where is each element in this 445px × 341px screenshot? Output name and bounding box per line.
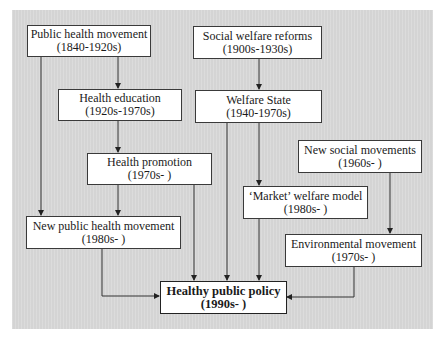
node-period: (1970s- ) [128,169,172,182]
node-public-health-movement: Public health movement (1840-1920s) [27,25,151,57]
node-social-welfare-reforms: Social welfare reforms (1900s-1930s) [193,26,322,59]
node-period: (1980s- ) [82,233,126,246]
node-period: (1960s- ) [338,157,382,170]
node-title: Environmental movement [291,238,416,251]
node-healthy-public-policy: Healthy public policy (1990s- ) [160,281,287,314]
node-health-promotion: Health promotion (1970s- ) [87,153,212,185]
node-title: New public health movement [33,220,175,233]
node-health-education: Health education (1920s-1970s) [58,89,182,121]
node-environmental-movement: Environmental movement (1970s- ) [285,234,422,267]
node-period: (1940-1970s) [226,107,291,120]
node-title: Social welfare reforms [203,30,312,43]
node-period: (1900s-1930s) [223,43,292,56]
node-market-welfare-model: ‘Market’ welfare model (1980s- ) [243,186,368,219]
node-title: New social movements [304,144,416,157]
node-period: (1980s- ) [284,203,328,216]
node-period: (1970s- ) [332,251,376,264]
node-period: (1920s-1970s) [85,105,154,118]
node-period: (1990s- ) [201,298,246,311]
node-title: Healthy public policy [167,285,281,298]
node-welfare-state: Welfare State (1940-1970s) [195,90,322,123]
node-title: ‘Market’ welfare model [249,190,363,203]
node-title: Welfare State [226,94,291,107]
node-period: (1840-1920s) [57,41,122,54]
node-new-public-health-movement: New public health movement (1980s- ) [26,216,181,249]
node-new-social-movements: New social movements (1960s- ) [298,140,422,173]
